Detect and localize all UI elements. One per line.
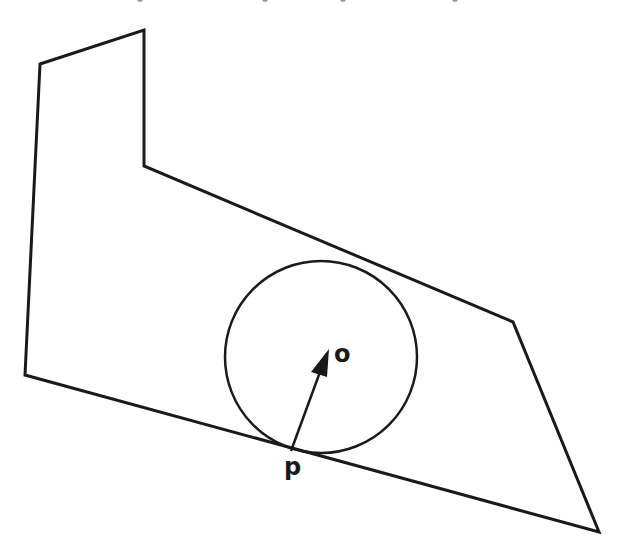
tangent-point-label: p [284,455,301,479]
arrow-head-icon [311,349,329,377]
diagram-canvas [0,0,618,551]
polygon-shape [25,30,599,532]
inscribed-circle [225,261,417,453]
arrow-shaft [291,372,320,451]
center-label: o [334,342,351,366]
